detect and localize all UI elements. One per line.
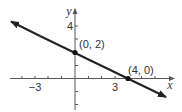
x-tick-label-3: 3 — [112, 81, 118, 93]
point-y-intercept-label: (0, 2) — [79, 38, 105, 50]
chart: −3 3 x 4 y (0, 2) (4, 0) — [0, 0, 182, 112]
y-tick-label-4: 4 — [67, 20, 73, 32]
point-y-intercept: (0, 2) — [72, 38, 104, 55]
x-axis: −3 3 x — [10, 76, 174, 93]
point-x-intercept-label: (4, 0) — [128, 64, 154, 76]
y-axis: 4 y — [65, 4, 78, 110]
x-axis-label: x — [166, 78, 173, 92]
y-axis-label: y — [65, 4, 72, 18]
x-tick-label-neg3: −3 — [29, 81, 42, 93]
